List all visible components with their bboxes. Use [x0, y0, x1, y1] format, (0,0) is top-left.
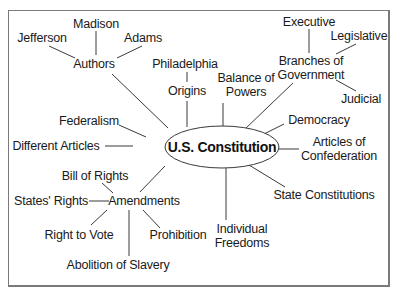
node-branches: Branches ofGovernment: [278, 54, 345, 82]
edge-amendments-prohibition: [143, 210, 160, 228]
node-bill-of-rights: Bill of Rights: [62, 169, 129, 183]
node-origins: Origins: [168, 84, 206, 98]
node-jefferson: Jefferson: [17, 31, 66, 45]
node-amendments: Amendments: [108, 194, 180, 208]
node-judicial: Judicial: [341, 92, 381, 106]
edge-authors-jefferson: [49, 46, 75, 58]
edge-branches-legislative: [336, 44, 356, 54]
node-executive: Executive: [283, 15, 335, 29]
edge-state_const-center: [249, 165, 285, 187]
node-state-const: State Constitutions: [273, 188, 374, 202]
central-concept-label: U.S. Constitution: [168, 139, 276, 155]
node-madison: Madison: [73, 17, 119, 31]
edge-amendments-bill_of_rights: [102, 183, 113, 193]
node-adams: Adams: [124, 31, 162, 45]
node-abolition: Abolition of Slavery: [66, 258, 169, 272]
node-right-to-vote: Right to Vote: [45, 228, 114, 242]
edge-amendments-center: [140, 166, 165, 192]
node-democracy: Democracy: [288, 113, 349, 127]
edge-amendments-right_to_vote: [91, 210, 107, 225]
edge-authors-adams: [117, 46, 142, 58]
node-federalism: Federalism: [59, 114, 119, 128]
node-philadelphia: Philadelphia: [152, 57, 218, 71]
node-authors: Authors: [73, 57, 115, 71]
node-states-rights: States' Rights: [14, 194, 88, 208]
node-articles-conf: Articles ofConfederation: [301, 135, 377, 163]
node-individual: IndividualFreedoms: [215, 222, 270, 250]
node-prohibition: Prohibition: [150, 228, 207, 242]
edge-federalism-center: [119, 125, 146, 137]
node-legislative: Legislative: [331, 29, 388, 43]
node-different-articles: Different Articles: [12, 139, 99, 153]
edge-authors-center: [112, 74, 168, 128]
node-balance: Balance ofPowers: [217, 71, 274, 99]
